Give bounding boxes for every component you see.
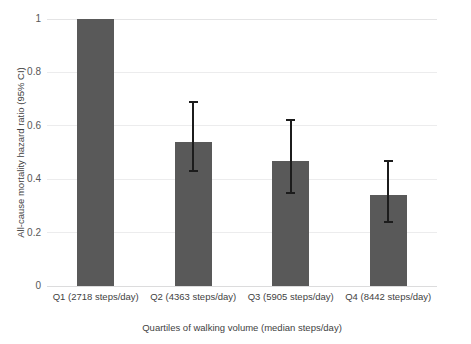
error-bar [290,120,292,192]
x-tick-label: Q1 (2718 steps/day) [47,291,145,303]
y-tick-label: 0 [0,281,41,291]
error-bar-cap-lower [189,170,198,172]
y-axis-title: All-cause mortality hazard ratio (95% CI… [14,19,28,286]
x-tick-label: Q2 (4363 steps/day) [145,291,243,303]
error-bar-cap-upper [286,119,295,121]
y-tick-label: 0.2 [0,228,41,238]
error-bar [192,102,194,171]
plot-area [47,19,437,286]
bar [77,19,114,286]
x-tick-label: Q4 (8442 steps/day) [340,291,438,303]
error-bar-cap-upper [384,160,393,162]
error-bar-cap-lower [286,192,295,194]
bar-chart: All-cause mortality hazard ratio (95% CI… [0,0,471,344]
y-tick-label: 0.8 [0,67,41,77]
y-tick-label: 1 [0,14,41,24]
y-tick-label: 0.6 [0,121,41,131]
error-bar [387,161,389,222]
error-bar-cap-lower [384,221,393,223]
x-tick-label: Q3 (5905 steps/day) [242,291,340,303]
y-tick-label: 0.4 [0,174,41,184]
x-axis-title: Quartiles of walking volume (median step… [47,322,437,334]
error-bar-cap-upper [189,101,198,103]
gridline [47,286,437,287]
